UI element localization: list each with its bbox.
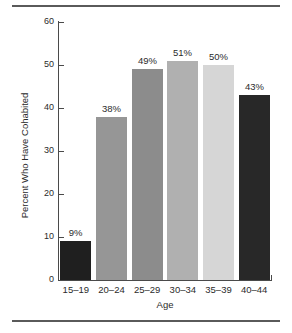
bar-value-label: 49% [123,56,172,66]
y-axis-tick-label: 50 [28,60,54,69]
bar[interactable] [239,95,270,280]
y-axis-tick-label: 30 [28,146,54,155]
bar-value-label: 43% [230,82,279,92]
x-axis-title: Age [58,299,272,310]
y-axis-tick-label: 0 [28,275,54,284]
y-axis-tick-label: 40 [28,103,54,112]
x-axis-tick-label: 40–44 [232,284,276,295]
chart-figure: 0102030405060 9%38%49%51%50%43% 15–1920–… [0,0,292,333]
y-axis-tick-label: 20 [28,189,54,198]
bar-value-label: 38% [87,104,136,114]
x-axis-line [58,280,272,281]
bar[interactable] [60,241,91,280]
y-axis-tick [59,194,64,195]
y-axis-title: Percent Who Have Cohabited [19,76,30,236]
y-axis-tick-label: 60 [28,17,54,26]
x-axis-end-tick [271,275,272,281]
bar-value-label: 9% [51,228,100,238]
bar[interactable] [96,117,127,280]
bar-chart-plot-area: 0102030405060 9%38%49%51%50%43% 15–1920–… [0,0,292,333]
y-axis-tick [59,22,64,23]
y-axis-tick [59,280,64,281]
bar[interactable] [132,69,163,280]
bar-value-label: 50% [194,52,243,62]
y-axis-tick [59,108,64,109]
y-axis-tick [59,151,64,152]
bar[interactable] [203,65,234,280]
y-axis-tick [59,65,64,66]
bar[interactable] [167,61,198,280]
